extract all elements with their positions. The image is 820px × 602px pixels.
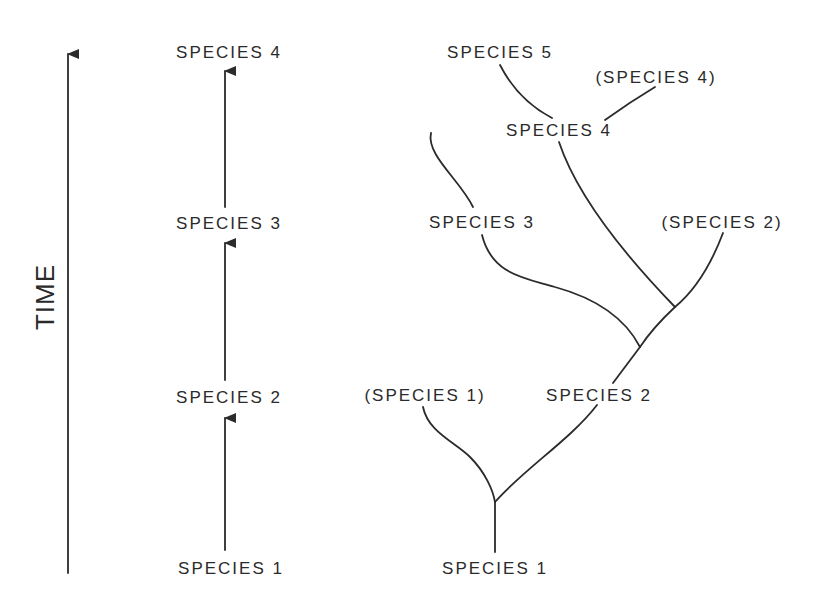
tree-label-species4: SPECIES 4 [506,122,612,139]
linear-label-species3: SPECIES 3 [176,215,282,232]
branch-ancestral-species1 [423,407,495,502]
tree-label-species1: SPECIES 1 [442,560,548,577]
linear-label-species1: SPECIES 1 [178,560,284,577]
branch-node-to-node [640,307,675,347]
tree-label-species2: SPECIES 2 [546,387,652,404]
time-axis-label: TIME [32,264,58,330]
tree-label-ancestral-species4: (SPECIES 4) [595,69,716,86]
tree-label-ancestral-species2: (SPECIES 2) [661,214,782,231]
branch-species5-to-species4 [500,65,552,118]
branch-species2-to-root [495,405,597,502]
tree-label-ancestral-species1: (SPECIES 1) [364,387,485,404]
tree-label-species5: SPECIES 5 [447,44,553,61]
linear-label-species2: SPECIES 2 [176,389,282,406]
branch-species3-lower [482,235,640,347]
branch-species4-to-node [559,142,675,307]
diagram-canvas [0,0,820,602]
tree-label-species3: SPECIES 3 [429,214,535,231]
branch-node-to-species2 [613,347,640,383]
branch-species3-upper [431,133,473,207]
branch-ancestral-species4 [605,87,655,120]
linear-label-species4: SPECIES 4 [176,44,282,61]
branch-ancestral-species2 [675,233,723,307]
